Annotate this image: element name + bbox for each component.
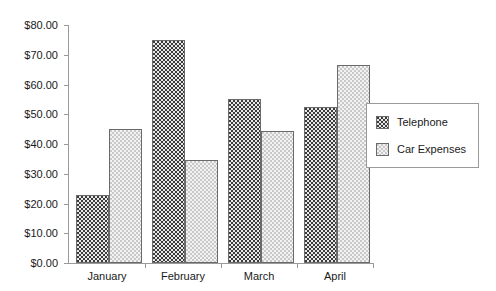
plot-area	[69, 25, 374, 263]
bar-car-expenses-february	[185, 160, 218, 263]
x-axis-tick	[145, 263, 146, 268]
x-axis-tick	[373, 263, 374, 268]
y-axis-labels: $80.00 $70.00 $60.00 $50.00 $40.00 $30.0…	[0, 0, 66, 291]
x-axis-category-label-march: March	[244, 271, 275, 282]
legend-swatch-car-expenses-icon	[376, 143, 389, 156]
x-axis-tick	[221, 263, 222, 268]
legend-item-car-expenses: Car Expenses	[376, 140, 466, 158]
x-axis-category-label-january: January	[87, 271, 126, 282]
chart-legend: Telephone Car Expenses	[366, 103, 479, 168]
bar-telephone-april	[304, 107, 337, 263]
bar-telephone-january	[76, 195, 109, 263]
x-axis-category-label-april: April	[324, 271, 346, 282]
x-axis-tick	[297, 263, 298, 268]
legend-swatch-telephone-icon	[376, 116, 389, 129]
bar-telephone-march	[228, 99, 261, 263]
bar-telephone-february	[152, 40, 185, 263]
legend-label-telephone: Telephone	[397, 117, 448, 128]
y-axis-tick-label: $50.00	[24, 109, 58, 120]
legend-label-car-expenses: Car Expenses	[397, 144, 466, 155]
y-axis-tick-label: $70.00	[24, 49, 58, 60]
bar-car-expenses-january	[109, 129, 142, 263]
y-axis-tick-label: $60.00	[24, 79, 58, 90]
y-axis-tick-label: $80.00	[24, 20, 58, 31]
y-axis-tick-label: $10.00	[24, 228, 58, 239]
x-axis-category-label-february: February	[161, 271, 205, 282]
bar-chart: $80.00 $70.00 $60.00 $50.00 $40.00 $30.0…	[0, 0, 496, 291]
y-axis-tick-label: $0.00	[30, 258, 58, 269]
legend-item-telephone: Telephone	[376, 113, 466, 131]
bar-car-expenses-march	[261, 131, 294, 263]
y-axis-tick-label: $30.00	[24, 168, 58, 179]
y-axis-tick-label: $20.00	[24, 198, 58, 209]
y-axis-tick-label: $40.00	[24, 139, 58, 150]
